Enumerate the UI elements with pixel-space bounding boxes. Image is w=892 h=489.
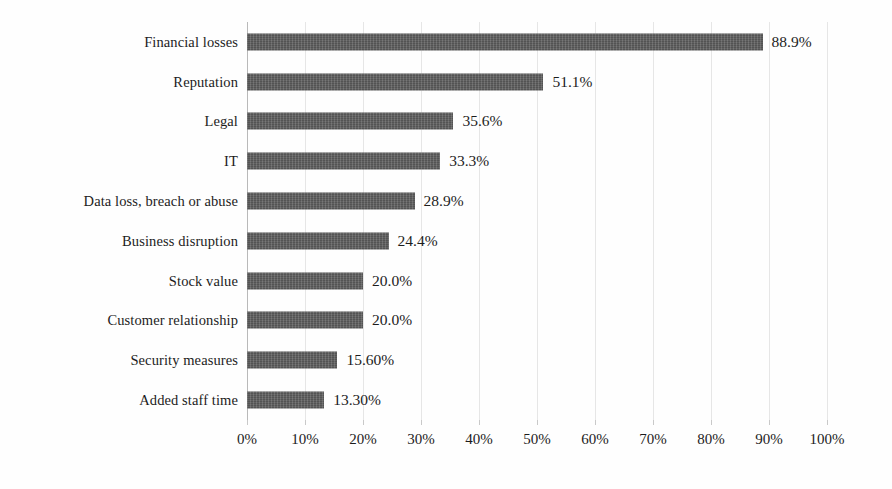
category-label: Financial losses <box>144 33 238 50</box>
bar <box>247 272 363 289</box>
x-axis-tick-label: 80% <box>697 431 725 448</box>
category-label: IT <box>224 153 238 170</box>
x-tick-10 <box>305 420 306 425</box>
bar-row: Reputation51.1% <box>247 62 827 102</box>
bar-row: Customer relationship20.0% <box>247 301 827 341</box>
x-axis-tick-label: 10% <box>291 431 319 448</box>
bar <box>247 232 389 249</box>
x-tick-100 <box>827 420 828 425</box>
bar-value-label: 35.6% <box>462 112 502 130</box>
x-tick-60 <box>595 420 596 425</box>
x-tick-20 <box>363 420 364 425</box>
bar-value-label: 20.0% <box>372 311 412 329</box>
bar <box>247 113 453 130</box>
bar-row: Security measures15.60% <box>247 340 827 380</box>
x-axis-tick-label: 100% <box>810 431 845 448</box>
x-tick-0 <box>247 420 248 425</box>
bar-row: Data loss, breach or abuse28.9% <box>247 181 827 221</box>
bar <box>247 33 763 50</box>
category-label: Business disruption <box>122 232 238 249</box>
bar <box>247 153 440 170</box>
category-label: Legal <box>204 113 238 130</box>
bar <box>247 73 543 90</box>
bar-row: Added staff time13.30% <box>247 380 827 420</box>
x-tick-50 <box>537 420 538 425</box>
x-axis-tick-label: 90% <box>755 431 783 448</box>
category-label: Security measures <box>130 352 238 369</box>
category-label: Stock value <box>169 272 238 289</box>
bar-row: Stock value20.0% <box>247 261 827 301</box>
bar-value-label: 33.3% <box>449 152 489 170</box>
x-axis-tick-label: 30% <box>407 431 435 448</box>
gridline-100 <box>827 22 828 420</box>
bar-value-label: 15.60% <box>346 351 394 369</box>
bar-value-label: 20.0% <box>372 272 412 290</box>
bar-row: Financial losses88.9% <box>247 22 827 62</box>
category-label: Added staff time <box>139 392 238 409</box>
x-axis-tick-label: 0% <box>237 431 257 448</box>
x-axis-tick-label: 60% <box>581 431 609 448</box>
x-tick-30 <box>421 420 422 425</box>
x-axis-tick-label: 20% <box>349 431 377 448</box>
plot-area: Financial losses88.9%Reputation51.1%Lega… <box>247 22 827 420</box>
bar-value-label: 28.9% <box>424 192 464 210</box>
x-tick-90 <box>769 420 770 425</box>
x-axis-tick-label: 40% <box>465 431 493 448</box>
x-axis-tick-label: 70% <box>639 431 667 448</box>
x-axis-tick-label: 50% <box>523 431 551 448</box>
bar <box>247 193 415 210</box>
category-label: Customer relationship <box>107 312 238 329</box>
bar-row: Legal35.6% <box>247 102 827 142</box>
x-tick-80 <box>711 420 712 425</box>
category-label: Reputation <box>173 73 238 90</box>
category-label: Data loss, breach or abuse <box>84 193 238 210</box>
bar-row: IT33.3% <box>247 141 827 181</box>
x-tick-40 <box>479 420 480 425</box>
bar-row: Business disruption24.4% <box>247 221 827 261</box>
bar <box>247 352 337 369</box>
bar <box>247 312 363 329</box>
bar-value-label: 51.1% <box>552 73 592 91</box>
bar-value-label: 24.4% <box>398 232 438 250</box>
bar <box>247 392 324 409</box>
bar-value-label: 13.30% <box>333 391 381 409</box>
x-tick-70 <box>653 420 654 425</box>
bar-value-label: 88.9% <box>772 33 812 51</box>
bar-chart: Financial losses88.9%Reputation51.1%Lega… <box>0 0 892 489</box>
